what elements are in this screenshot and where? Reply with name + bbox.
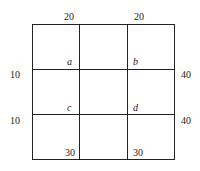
bottom-label-2: 30	[133, 148, 143, 158]
point-d: d	[133, 103, 138, 113]
grid-vline-2	[127, 25, 128, 159]
point-b: b	[133, 57, 138, 67]
right-label-1: 40	[181, 70, 191, 80]
point-c: c	[67, 103, 71, 113]
grid-vline-1	[79, 25, 80, 159]
point-a: a	[67, 57, 72, 67]
left-label-1: 10	[10, 70, 20, 80]
left-label-2: 10	[10, 116, 20, 126]
bottom-label-1: 30	[65, 148, 75, 158]
top-label-1: 20	[64, 12, 74, 22]
grid-hline-2	[33, 114, 174, 115]
grid-hline-1	[33, 69, 174, 70]
grid	[32, 24, 175, 160]
right-label-2: 40	[181, 116, 191, 126]
top-label-2: 20	[134, 12, 144, 22]
